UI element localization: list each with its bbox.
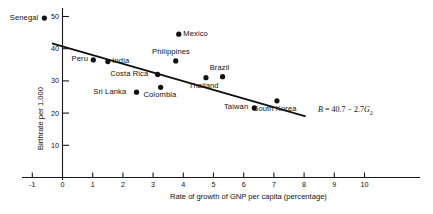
y-axis-title: Birthrate per 1,000 <box>36 87 45 150</box>
data-point-label: Thailand <box>189 82 219 90</box>
x-tick-label: 2 <box>118 180 128 189</box>
x-tick-label: 10 <box>360 180 370 189</box>
data-point <box>158 85 163 90</box>
x-tick-label: 8 <box>299 180 309 189</box>
data-point-label: Sri Lanka <box>93 88 126 96</box>
scatter-chart: SenegalPeruIndiaPhilippinesMexicoCosta R… <box>0 0 433 214</box>
data-point <box>176 32 181 37</box>
data-point-label: Senegal <box>10 14 39 22</box>
data-point <box>220 74 225 79</box>
y-tick-label: 10 <box>47 141 59 150</box>
x-tick-label: 5 <box>209 180 219 189</box>
y-axis-ticks <box>63 17 70 146</box>
x-tick-label: 0 <box>58 180 68 189</box>
x-tick-label: 1 <box>88 180 98 189</box>
data-point-label: Costa Rica <box>110 70 148 78</box>
axis-lines <box>22 8 420 180</box>
x-tick-label: 3 <box>148 180 158 189</box>
data-point <box>173 58 178 63</box>
data-point-label: Taiwan <box>224 103 248 111</box>
data-point-label: Peru <box>72 55 88 63</box>
data-point-label: Brazil <box>210 64 230 72</box>
data-point <box>91 57 96 62</box>
data-point <box>274 98 279 103</box>
data-point-label: South Korea <box>253 105 296 113</box>
data-point-label: Colombia <box>143 91 176 99</box>
data-point-label: India <box>112 57 129 65</box>
x-tick-label: 4 <box>178 180 188 189</box>
regression-equation: B = 40.7 − 2.7G2 <box>318 105 373 116</box>
x-tick-label: 9 <box>329 180 339 189</box>
y-tick-label: 30 <box>47 76 59 85</box>
x-tick-label: -1 <box>27 180 37 189</box>
x-tick-label: 6 <box>239 180 249 189</box>
x-axis-ticks <box>32 173 364 178</box>
data-point-label: Mexico <box>183 30 208 38</box>
data-point <box>155 72 160 77</box>
y-tick-label: 20 <box>47 109 59 118</box>
y-tick-label: 40 <box>47 44 59 53</box>
data-point-label: Philippines <box>152 48 190 56</box>
x-axis-title: Rate of growth of GNP per capita (percen… <box>170 192 327 201</box>
data-point <box>134 90 139 95</box>
data-point <box>105 59 110 64</box>
data-point <box>203 75 208 80</box>
y-tick-label: 50 <box>47 12 59 21</box>
x-tick-label: 7 <box>269 180 279 189</box>
